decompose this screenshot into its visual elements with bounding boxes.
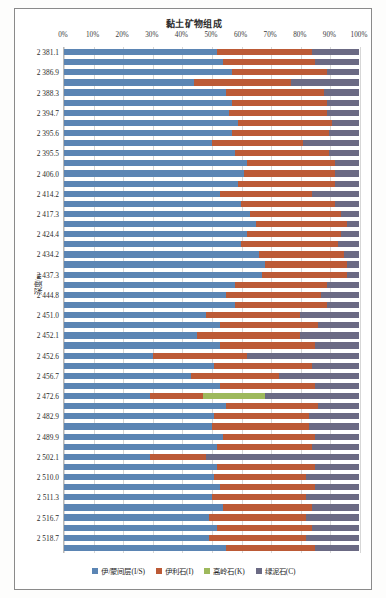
bar-segment: [209, 514, 306, 520]
bar-row: [64, 302, 359, 308]
bar-segment: [212, 494, 306, 500]
bar-segment: [318, 403, 359, 409]
bar-segment: [344, 251, 359, 257]
bar-segment: [64, 514, 209, 520]
legend-swatch-icon: [156, 568, 162, 574]
bar-segment: [247, 160, 336, 166]
y-tick-label: 2 434.2: [37, 250, 59, 259]
bar-segment: [64, 241, 241, 247]
bar-segment: [64, 393, 150, 399]
bar-segment: [64, 373, 191, 379]
bar-row: [64, 494, 359, 500]
x-tick-label: 20%: [116, 31, 129, 39]
bar-segment: [315, 59, 359, 65]
bar-segment: [315, 434, 359, 440]
bar-segment: [64, 494, 212, 500]
bar-segment: [64, 251, 259, 257]
y-tick-label: 2 456.7: [37, 371, 59, 380]
bar-segment: [312, 49, 359, 55]
bar-row: [64, 373, 359, 379]
bar-segment: [64, 535, 209, 541]
bar-row: [64, 393, 359, 399]
bar-segment: [220, 383, 314, 389]
bar-segment: [312, 504, 359, 510]
bar-segment: [315, 484, 359, 490]
bar-segment: [312, 525, 359, 531]
bar-segment: [291, 79, 359, 85]
bar-segment: [64, 342, 220, 348]
legend-item[interactable]: 高岭石(K): [204, 565, 244, 576]
bar-segment: [235, 150, 329, 156]
bar-segment: [212, 423, 309, 429]
bar-segment: [64, 444, 217, 450]
bar-segment: [232, 100, 326, 106]
bar-segment: [64, 49, 217, 55]
legend-item[interactable]: 绿泥石(C): [256, 565, 296, 576]
x-axis-tick-labels: 0%10%20%30%40%50%60%70%80%90%100%: [63, 31, 359, 45]
bar-row: [64, 49, 359, 55]
bar-series-container: [64, 47, 359, 553]
bar-segment: [64, 363, 214, 369]
bar-segment: [64, 160, 247, 166]
bar-segment: [64, 322, 220, 328]
bar-segment: [241, 241, 338, 247]
bar-segment: [315, 383, 359, 389]
bar-segment: [262, 272, 348, 278]
y-tick-label: 2 511.3: [37, 493, 59, 502]
legend-item[interactable]: 伊/蒙间层(I/S): [92, 565, 145, 576]
bar-segment: [232, 69, 326, 75]
bar-row: [64, 191, 359, 197]
bar-segment: [197, 332, 300, 338]
bar-segment: [64, 383, 220, 389]
bar-segment: [217, 464, 314, 470]
bar-row: [64, 292, 359, 298]
bar-row: [64, 261, 359, 267]
bar-row: [64, 130, 359, 136]
bar-row: [64, 332, 359, 338]
bar-row: [64, 211, 359, 217]
bar-segment: [329, 150, 359, 156]
bar-row: [64, 282, 359, 288]
legend-label: 绿泥石(C): [265, 565, 296, 576]
bar-segment: [241, 201, 335, 207]
bar-row: [64, 413, 359, 419]
bar-row: [64, 150, 359, 156]
y-tick-label: 2 394.7: [37, 108, 59, 117]
legend-label: 伊利石(I): [165, 565, 193, 576]
bar-segment: [235, 282, 326, 288]
x-tick-label: 0%: [58, 31, 68, 39]
bar-segment: [64, 110, 229, 116]
figure-frame: 黏土矿物组成 深度/m 0%10%20%30%40%50%60%70%80%90…: [0, 0, 386, 598]
y-tick-label: 2 516.7: [37, 513, 59, 522]
bar-segment: [64, 261, 265, 267]
bar-row: [64, 353, 359, 359]
bar-segment: [64, 282, 235, 288]
bar-segment: [64, 423, 212, 429]
bar-row: [64, 89, 359, 95]
bar-segment: [214, 413, 308, 419]
bar-segment: [335, 181, 359, 187]
bar-segment: [206, 454, 359, 460]
legend-swatch-icon: [92, 568, 98, 574]
bar-segment: [312, 363, 359, 369]
bar-segment: [150, 454, 206, 460]
bar-segment: [226, 403, 317, 409]
bar-segment: [312, 191, 359, 197]
bar-segment: [203, 393, 265, 399]
bar-segment: [64, 79, 194, 85]
bar-segment: [306, 474, 359, 480]
legend-item[interactable]: 伊利石(I): [156, 565, 193, 576]
bar-row: [64, 312, 359, 318]
y-tick-label: 2 424.4: [37, 230, 59, 239]
y-tick-label: 2 444.8: [37, 290, 59, 299]
bar-segment: [341, 231, 359, 237]
bar-segment: [306, 535, 359, 541]
chart-title: 黏土矿物组成: [15, 17, 373, 30]
bar-segment: [332, 120, 359, 126]
bar-segment: [220, 322, 317, 328]
bar-segment: [220, 191, 311, 197]
y-tick-label: 2 381.1: [37, 48, 59, 57]
bar-row: [64, 100, 359, 106]
bar-segment: [209, 535, 306, 541]
bar-segment: [226, 292, 320, 298]
